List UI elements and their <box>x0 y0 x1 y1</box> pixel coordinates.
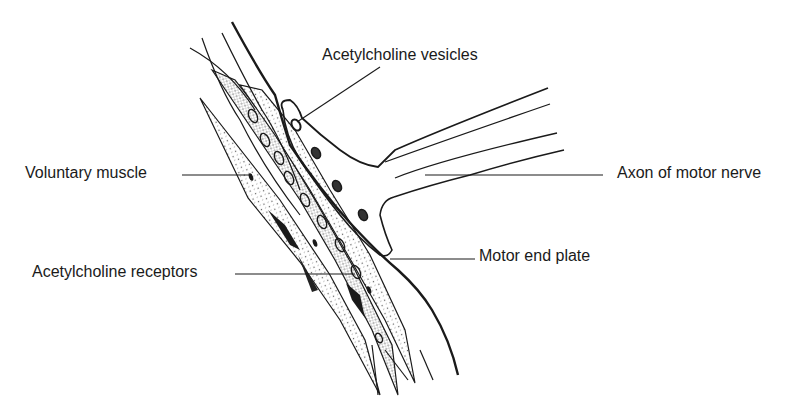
label-motor-end-plate: Motor end plate <box>479 247 590 265</box>
label-acetylcholine-receptors: Acetylcholine receptors <box>32 263 197 281</box>
label-acetylcholine-vesicles: Acetylcholine vesicles <box>322 46 478 64</box>
voluntary-muscle-fibers <box>200 70 415 395</box>
label-voluntary-muscle: Voluntary muscle <box>25 164 147 182</box>
leader-acetylcholine-vesicles <box>297 67 380 122</box>
label-axon-of-motor-nerve: Axon of motor nerve <box>617 164 761 182</box>
